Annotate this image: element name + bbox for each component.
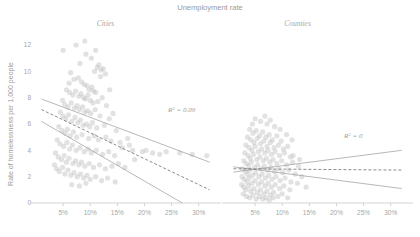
data-point xyxy=(90,100,95,105)
data-point xyxy=(94,125,99,130)
data-point xyxy=(258,119,263,124)
data-point xyxy=(69,100,74,105)
data-point xyxy=(285,144,290,149)
data-point xyxy=(290,153,295,158)
y-tick-label: 8 xyxy=(27,94,31,101)
data-point xyxy=(122,165,127,170)
panel-cities: Cities5%10%15%20%25%30%R2 = 0.09 xyxy=(30,19,221,219)
data-point xyxy=(72,115,77,120)
data-point xyxy=(85,92,90,97)
x-tick-label: 5% xyxy=(250,209,260,216)
x-tick-label: 15% xyxy=(111,209,124,216)
x-tick-label: 30% xyxy=(384,209,397,216)
data-point xyxy=(284,132,289,137)
data-point xyxy=(281,183,286,188)
data-point xyxy=(277,153,282,158)
chart-title: Unemployment rate xyxy=(177,3,242,12)
data-point xyxy=(125,136,130,141)
data-point xyxy=(262,114,267,119)
data-point xyxy=(268,117,273,122)
data-point xyxy=(69,182,74,187)
data-point xyxy=(273,182,278,187)
data-point xyxy=(71,129,76,134)
data-point xyxy=(93,90,98,95)
data-point xyxy=(295,181,300,186)
data-point xyxy=(274,133,279,138)
data-point xyxy=(144,148,149,153)
data-point xyxy=(282,175,287,180)
data-point xyxy=(289,137,294,142)
x-tick-label: 25% xyxy=(165,209,178,216)
data-point xyxy=(117,140,122,145)
data-point xyxy=(99,178,104,183)
data-point xyxy=(77,183,82,188)
data-point xyxy=(299,174,304,179)
x-tick-label: 30% xyxy=(192,209,205,216)
data-point xyxy=(282,150,287,155)
panel-title-cities: Cities xyxy=(97,19,115,28)
data-point xyxy=(112,153,117,158)
panel-counties: Counties5%10%15%20%25%30%R2 = 0 xyxy=(222,19,413,216)
data-point xyxy=(88,177,93,182)
data-point xyxy=(249,160,254,165)
scatter-chart-svg: Unemployment rateRate of homelessness pe… xyxy=(0,0,420,237)
data-point xyxy=(82,38,87,43)
y-tick-label: 6 xyxy=(27,120,31,127)
x-tick-label: 10% xyxy=(276,209,289,216)
points-group-counties xyxy=(239,114,309,203)
data-point xyxy=(275,194,280,199)
data-point xyxy=(103,71,108,76)
data-point xyxy=(73,88,78,93)
data-point xyxy=(277,178,282,183)
data-point xyxy=(104,103,109,108)
data-point xyxy=(304,185,309,190)
r2-annotation-counties: R2 = 0 xyxy=(343,132,363,141)
data-point xyxy=(86,136,91,141)
data-point xyxy=(80,104,85,109)
x-tick-label: 20% xyxy=(330,209,343,216)
data-point xyxy=(157,152,162,157)
data-point xyxy=(296,164,301,169)
data-point xyxy=(293,171,298,176)
panel-title-counties: Counties xyxy=(284,19,311,28)
data-point xyxy=(93,48,98,53)
r2-value: = 0 xyxy=(351,132,363,140)
data-point xyxy=(74,42,79,47)
data-point xyxy=(107,116,112,121)
data-point xyxy=(271,190,276,195)
data-point xyxy=(280,191,285,196)
data-point xyxy=(90,120,95,125)
data-point xyxy=(65,127,70,132)
data-point xyxy=(132,157,137,162)
data-point xyxy=(106,149,111,154)
data-point xyxy=(62,153,67,158)
data-point xyxy=(204,153,209,158)
data-point xyxy=(277,127,282,132)
data-point xyxy=(97,114,102,119)
data-point xyxy=(93,174,98,179)
data-point xyxy=(127,142,132,147)
data-point xyxy=(253,144,258,149)
data-point xyxy=(246,183,251,188)
r2-annotation-cities: R2 = 0.09 xyxy=(167,106,196,115)
y-tick-label: 12 xyxy=(24,41,32,48)
data-point xyxy=(87,161,92,166)
data-point xyxy=(80,132,85,137)
data-point xyxy=(96,62,101,67)
data-point xyxy=(109,164,114,169)
data-point xyxy=(267,132,272,137)
data-point xyxy=(276,142,281,147)
data-point xyxy=(107,87,112,92)
data-point xyxy=(287,187,292,192)
y-tick-label: 10 xyxy=(24,68,32,75)
data-point xyxy=(250,121,255,126)
data-point xyxy=(65,167,70,172)
data-point xyxy=(60,165,65,170)
data-point xyxy=(77,61,82,66)
data-point xyxy=(93,107,98,112)
chart-figure: Unemployment rateRate of homelessness pe… xyxy=(0,0,420,237)
y-axis-title: Rate of homelessness per 1,000 people xyxy=(7,62,15,186)
data-point xyxy=(286,167,291,172)
data-point xyxy=(164,149,169,154)
data-point xyxy=(120,145,125,150)
